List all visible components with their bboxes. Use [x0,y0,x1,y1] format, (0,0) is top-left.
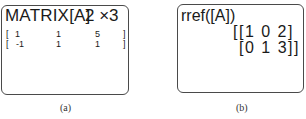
matrix-cell-1-3: 5 [95,29,100,39]
matrix-cell-2-2: 1 [56,39,61,49]
matrix-row-1: [ 1 1 5 ] [2,29,130,39]
calculator-screen-matrix-a: MATRIX[A] 2 ×3 [ 1 1 5 ] [ -1 1 1 ] [1,5,129,95]
matrix-cell-1-1: 1 [15,29,20,39]
row-close-bracket: ] [123,29,126,39]
matrix-dimensions: 2 ×3 [85,7,119,25]
row-close-bracket: ] [123,39,126,49]
row-open-bracket: [ [6,39,9,49]
matrix-cell-1-2: 1 [56,29,61,39]
matrix-cell-2-1: -1 [16,39,24,49]
caption-b: (b) [236,102,248,113]
row-open-bracket: [ [6,29,9,39]
caption-a: (a) [60,102,71,113]
matrix-row-2: [ -1 1 1 ] [2,39,130,49]
matrix-title: MATRIX[A] [5,7,91,25]
rref-result-row-1: [[1 0 2] [233,23,294,40]
calculator-screen-rref: rref([A]) [[1 0 2] [0 1 3]] [177,4,304,93]
rref-command: rref([A]) [181,7,235,24]
matrix-cell-2-3: 1 [95,39,100,49]
rref-result-row-2: [0 1 3]] [239,39,300,56]
